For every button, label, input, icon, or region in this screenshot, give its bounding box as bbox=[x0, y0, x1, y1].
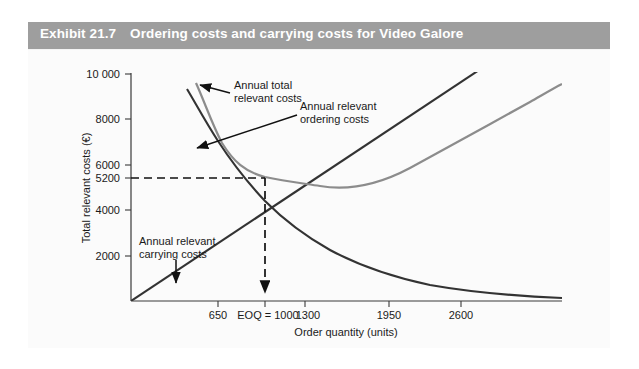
annotation-ordering-costs-line2: ordering costs bbox=[300, 113, 370, 125]
y-axis bbox=[125, 73, 131, 301]
x-axis-title: Order quantity (units) bbox=[294, 326, 397, 338]
annotation-total-relevant-costs: Annual total relevant costs bbox=[200, 79, 302, 104]
y-tick-label-2000: 2000 bbox=[96, 250, 120, 262]
series-ordering-costs-line bbox=[187, 89, 562, 298]
annotation-carrying-costs-line1: Annual relevant bbox=[139, 235, 215, 247]
annotation-ordering-costs-line1: Annual relevant bbox=[300, 100, 376, 112]
exhibit-figure: Exhibit 21.7 Ordering costs and carrying… bbox=[0, 0, 639, 369]
y-tick-label-6000: 6000 bbox=[96, 159, 120, 171]
annotation-total-relevant-costs-line1: Annual total bbox=[234, 79, 292, 91]
annotation-carrying-costs-line2: carrying costs bbox=[139, 248, 207, 260]
y-tick-label-8000: 8000 bbox=[96, 113, 120, 125]
x-tick-label-2600: 2600 bbox=[449, 309, 473, 321]
x-axis bbox=[131, 301, 562, 307]
annotation-carrying-costs: Annual relevant carrying costs bbox=[139, 235, 215, 283]
y-tick-label-5200: 5200 bbox=[96, 172, 120, 184]
x-tick-label-1300: 1300 bbox=[296, 309, 320, 321]
y-axis-title: Total relevant costs (€) bbox=[80, 133, 92, 244]
x-tick-label-eoq: EOQ = 1000 bbox=[237, 309, 298, 321]
annotation-total-relevant-costs-line2: relevant costs bbox=[234, 92, 302, 104]
annotation-ordering-costs: Annual relevant ordering costs bbox=[197, 100, 376, 148]
x-tick-label-650: 650 bbox=[209, 309, 227, 321]
y-tick-label-10000: 10 000 bbox=[86, 68, 120, 80]
x-tick-label-1950: 1950 bbox=[377, 309, 401, 321]
chart-canvas: 10 000 8000 6000 5200 4000 2000 650 EOQ … bbox=[0, 0, 639, 369]
y-tick-label-4000: 4000 bbox=[96, 204, 120, 216]
